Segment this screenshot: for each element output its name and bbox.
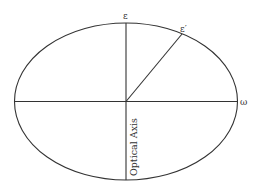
label-epsilon: ε bbox=[123, 11, 128, 21]
label-omega: ω bbox=[240, 97, 247, 107]
diagonal-line bbox=[126, 34, 182, 102]
label-epsilon-prime: ε′ bbox=[180, 24, 187, 34]
index-ellipse-diagram: ε ε′ ω Optical Axis bbox=[0, 0, 257, 190]
label-optical-axis: Optical Axis bbox=[128, 118, 139, 176]
